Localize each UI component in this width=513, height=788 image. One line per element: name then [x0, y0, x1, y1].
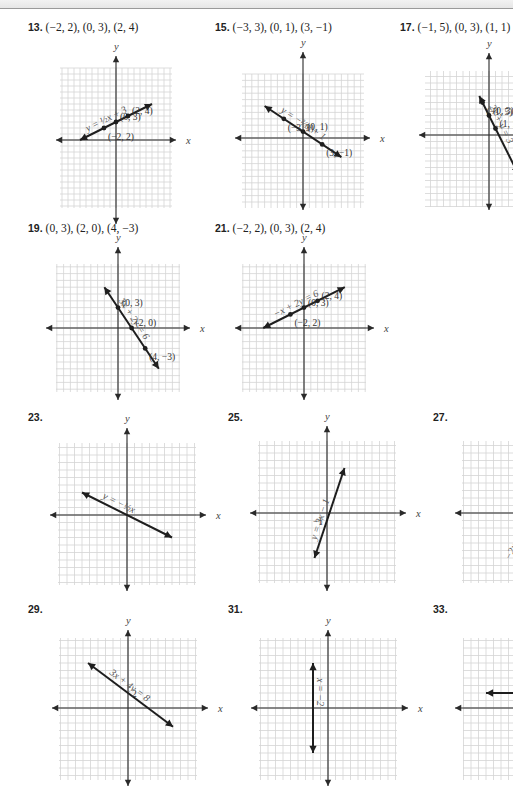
graph-33: xy: [0, 0, 513, 788]
